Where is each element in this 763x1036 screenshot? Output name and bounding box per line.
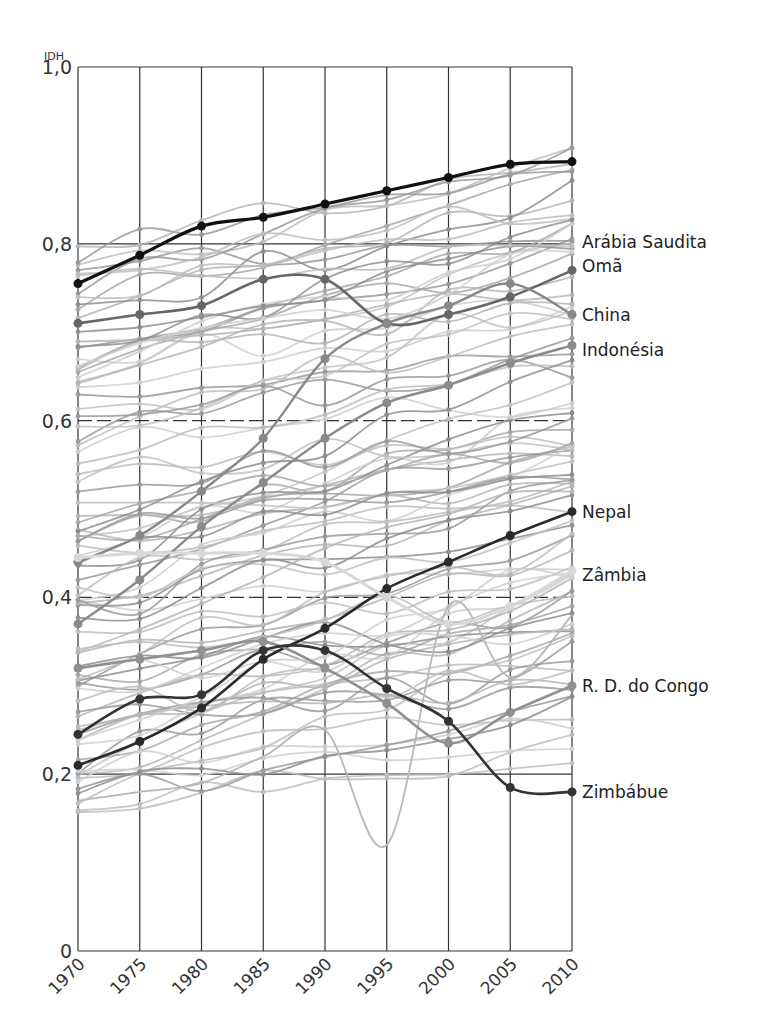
- data-point: [261, 729, 266, 734]
- data-point: [76, 598, 81, 603]
- data-point: [570, 222, 575, 227]
- data-point: [76, 364, 81, 369]
- data-point: [508, 509, 513, 514]
- series-point: [321, 200, 330, 209]
- series-point: [444, 717, 453, 726]
- series-point: [197, 222, 206, 231]
- data-point: [446, 287, 451, 292]
- data-point: [570, 668, 575, 673]
- data-point: [323, 238, 328, 243]
- data-point: [261, 675, 266, 680]
- data-point: [261, 390, 266, 395]
- data-point: [384, 237, 389, 242]
- data-point: [137, 689, 142, 694]
- x-tick-label: 1995: [353, 954, 398, 999]
- data-point: [508, 461, 513, 466]
- data-point: [508, 403, 513, 408]
- data-point: [384, 355, 389, 360]
- series-point: [321, 664, 330, 673]
- data-point: [446, 256, 451, 261]
- series-point: [259, 637, 268, 646]
- data-point: [261, 523, 266, 528]
- data-point: [323, 297, 328, 302]
- data-point: [384, 463, 389, 468]
- data-point: [508, 301, 513, 306]
- data-point: [570, 217, 575, 222]
- data-point: [446, 589, 451, 594]
- data-point: [76, 801, 81, 806]
- data-point: [137, 349, 142, 354]
- data-point: [261, 316, 266, 321]
- series-point: [382, 398, 391, 407]
- data-point: [199, 640, 204, 645]
- data-point: [384, 370, 389, 375]
- data-point: [384, 266, 389, 271]
- data-point: [446, 204, 451, 209]
- data-point: [384, 574, 389, 579]
- data-point: [384, 715, 389, 720]
- series-label: Omã: [582, 256, 622, 276]
- data-point: [76, 449, 81, 454]
- data-point: [508, 430, 513, 435]
- data-point: [199, 773, 204, 778]
- data-point: [137, 268, 142, 273]
- data-point: [199, 507, 204, 512]
- series-point: [74, 319, 83, 328]
- data-point: [76, 578, 81, 583]
- data-point: [323, 307, 328, 312]
- data-point: [570, 275, 575, 280]
- series-point: [382, 186, 391, 195]
- series-point: [74, 619, 83, 628]
- series-point: [382, 699, 391, 708]
- data-point: [446, 262, 451, 267]
- data-point: [570, 594, 575, 599]
- data-point: [323, 522, 328, 527]
- data-point: [76, 302, 81, 307]
- data-point: [199, 313, 204, 318]
- series-point: [135, 695, 144, 704]
- data-point: [199, 745, 204, 750]
- data-point: [570, 531, 575, 536]
- data-point: [137, 272, 142, 277]
- data-point: [137, 325, 142, 330]
- data-point: [76, 500, 81, 505]
- data-point: [323, 469, 328, 474]
- data-point: [137, 679, 142, 684]
- data-point: [446, 237, 451, 242]
- data-point: [137, 243, 142, 248]
- data-point: [137, 585, 142, 590]
- data-point: [384, 197, 389, 202]
- data-point: [446, 489, 451, 494]
- data-point: [76, 407, 81, 412]
- data-point: [570, 364, 575, 369]
- hdi-line-chart: IDH00,20,40,60,81,0197019751980198519901…: [0, 0, 763, 1036]
- data-point: [199, 758, 204, 763]
- data-point: [199, 676, 204, 681]
- series-point: [382, 319, 391, 328]
- series-point: [321, 558, 330, 567]
- data-point: [508, 235, 513, 240]
- data-point: [446, 270, 451, 275]
- data-point: [261, 239, 266, 244]
- data-point: [570, 659, 575, 664]
- data-point: [508, 455, 513, 460]
- series-point: [321, 624, 330, 633]
- data-point: [384, 500, 389, 505]
- data-point: [199, 723, 204, 728]
- series-point: [74, 761, 83, 770]
- data-point: [446, 611, 451, 616]
- data-point: [446, 245, 451, 250]
- data-point: [570, 548, 575, 553]
- data-point: [261, 360, 266, 365]
- data-point: [384, 748, 389, 753]
- data-point: [76, 686, 81, 691]
- series-point: [197, 549, 206, 558]
- data-point: [261, 709, 266, 714]
- data-point: [137, 501, 142, 506]
- data-point: [76, 779, 81, 784]
- data-point: [261, 231, 266, 236]
- data-point: [570, 411, 575, 416]
- data-point: [199, 562, 204, 567]
- data-point: [199, 566, 204, 571]
- data-point: [384, 203, 389, 208]
